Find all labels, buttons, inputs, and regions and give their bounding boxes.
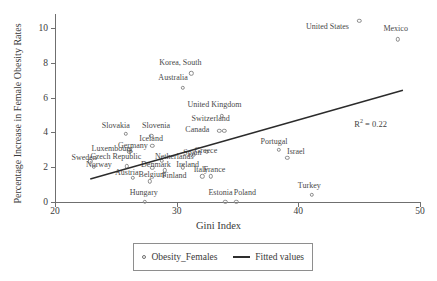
scatter-point[interactable]	[285, 155, 289, 159]
y-tick-mark	[51, 98, 55, 99]
r-squared-annotation: R2 = 0.22	[354, 118, 387, 129]
y-tick-label: 2	[28, 162, 48, 172]
point-label: Luxembourg	[92, 143, 133, 152]
point-label: France	[203, 165, 225, 174]
y-tick-mark	[51, 132, 55, 133]
y-tick-label: 6	[28, 93, 48, 103]
legend-item-fitted-values[interactable]: Fitted values	[233, 252, 304, 262]
scatter-point[interactable]	[223, 199, 227, 203]
point-label: Mexico	[383, 24, 407, 33]
x-axis-title: Gini Index	[0, 220, 437, 231]
scatter-point[interactable]	[209, 174, 213, 178]
x-tick-label: 30	[172, 206, 182, 216]
scatter-point[interactable]	[217, 128, 221, 132]
point-label: Portugal	[260, 137, 287, 146]
x-tick-label: 40	[294, 206, 304, 216]
scatter-point[interactable]	[123, 132, 127, 136]
y-axis-line	[55, 14, 56, 203]
point-label: Australia	[158, 72, 187, 81]
scatter-point[interactable]	[277, 148, 281, 152]
point-label: United Kingdom	[187, 99, 241, 108]
point-label: Denmark	[141, 160, 171, 169]
scatter-point[interactable]	[150, 144, 154, 148]
scatter-point[interactable]	[396, 37, 400, 41]
open-circle-icon	[142, 255, 147, 260]
scatter-point[interactable]	[148, 179, 152, 183]
point-label: Switzerland	[192, 113, 230, 122]
y-tick-label: 0	[28, 197, 48, 207]
scatter-point[interactable]	[131, 176, 135, 180]
scatter-point[interactable]	[189, 71, 193, 75]
line-icon	[233, 256, 250, 258]
y-tick-mark	[51, 63, 55, 64]
scatter-point[interactable]	[234, 199, 238, 203]
y-tick-mark	[51, 167, 55, 168]
x-tick-label: 20	[50, 206, 60, 216]
y-tick-mark	[51, 28, 55, 29]
chart-root: 0246810 20304050 United StatesMexicoKore…	[0, 0, 437, 281]
scatter-point[interactable]	[181, 86, 185, 90]
point-label: Norway	[86, 159, 112, 168]
x-tick-label: 50	[415, 206, 425, 216]
legend-item-obesity-females[interactable]: Obesity_Females	[142, 252, 218, 262]
point-label: Slovenia	[142, 121, 170, 130]
point-label: Korea, South	[159, 57, 201, 66]
point-label: Estonia	[208, 187, 232, 196]
y-tick-label: 10	[28, 23, 48, 33]
legend-label-obesity-females: Obesity_Females	[151, 252, 217, 262]
point-label: Greece	[195, 146, 218, 155]
point-label: Canada	[185, 124, 209, 133]
chart-legend: Obesity_Females Fitted values	[133, 243, 313, 271]
y-axis-title: Percentage Increase in Female Obesity Ra…	[12, 14, 23, 214]
scatter-point[interactable]	[143, 199, 147, 203]
point-label: Hungary	[130, 187, 158, 196]
scatter-point[interactable]	[357, 19, 361, 23]
scatter-point[interactable]	[200, 174, 204, 178]
y-tick-label: 4	[28, 127, 48, 137]
point-label: Poland	[234, 187, 256, 196]
scatter-point[interactable]	[310, 192, 314, 196]
y-tick-label: 8	[28, 58, 48, 68]
point-label: Israel	[287, 146, 305, 155]
point-label: Turkey	[298, 181, 321, 190]
fitted-line-svg	[0, 0, 437, 281]
point-label: United States	[306, 22, 349, 31]
point-label: Austria	[115, 167, 139, 176]
x-axis-line	[55, 202, 421, 203]
scatter-point[interactable]	[222, 128, 226, 132]
legend-label-fitted-values: Fitted values	[255, 252, 304, 262]
point-label: Finland	[162, 170, 186, 179]
point-label: Slovakia	[102, 120, 130, 129]
